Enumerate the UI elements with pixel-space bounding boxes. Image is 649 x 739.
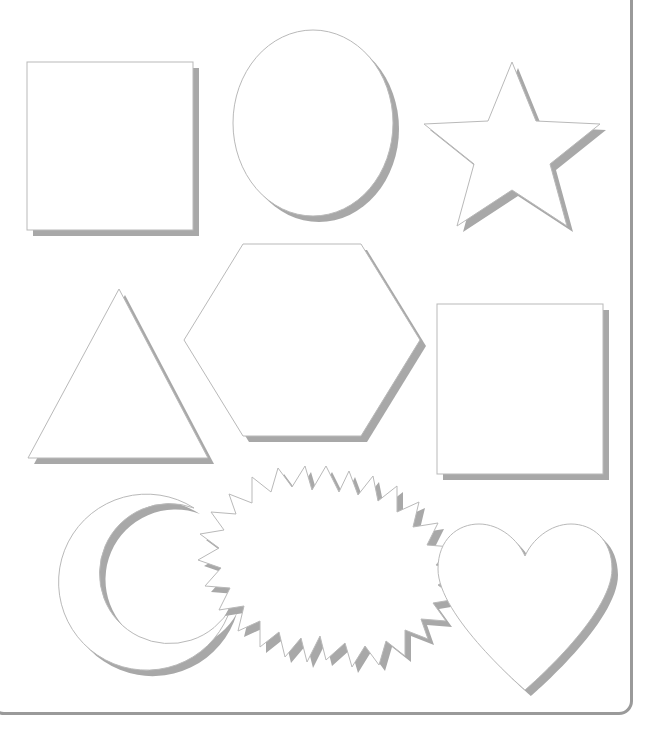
shape-sunburst-1[interactable]: [198, 466, 465, 673]
heart-1-body: [438, 524, 612, 690]
shape-square-2[interactable]: [437, 304, 609, 480]
shapes-layer: [0, 0, 649, 739]
shape-triangle-1[interactable]: [28, 289, 214, 464]
shape-square-1[interactable]: [27, 62, 199, 236]
shape-heart-1[interactable]: [438, 524, 618, 696]
shape-hexagon-1[interactable]: [184, 244, 426, 442]
crescent-1-body: [59, 494, 231, 670]
worksheet-canvas: [0, 0, 649, 739]
triangle-1-body: [28, 289, 208, 458]
circle-1-body: [233, 30, 393, 216]
shape-circle-1[interactable]: [233, 30, 399, 222]
square-1-body: [27, 62, 193, 230]
shape-star-1[interactable]: [424, 62, 606, 232]
square-2-body: [437, 304, 603, 474]
star-1-body: [424, 62, 600, 226]
